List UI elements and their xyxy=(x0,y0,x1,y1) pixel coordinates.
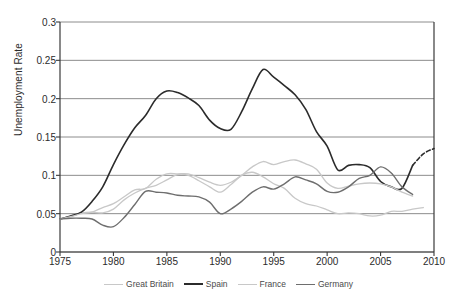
x-tick-label: 1975 xyxy=(37,256,83,267)
series-line-france xyxy=(60,160,413,219)
legend-item[interactable]: Germany xyxy=(296,279,353,289)
series-line-spain-projection xyxy=(413,149,434,166)
legend-item[interactable]: Great Britain xyxy=(104,279,174,289)
legend-label: Spain xyxy=(206,279,228,289)
x-tick-label: 1985 xyxy=(144,256,190,267)
unemployment-rate-line-chart: Unemployment Rate 00.050.10.150.20.250.3… xyxy=(0,0,457,301)
chart-legend: Great BritainSpainFranceGermany xyxy=(0,279,457,289)
x-tick-label: 1990 xyxy=(197,256,243,267)
legend-label: Great Britain xyxy=(126,279,174,289)
series-line-spain xyxy=(60,69,413,219)
legend-line-swatch xyxy=(238,284,257,285)
legend-label: France xyxy=(260,279,286,289)
series-line-great-britain xyxy=(60,172,423,219)
legend-item[interactable]: Spain xyxy=(184,279,228,289)
legend-line-swatch xyxy=(104,284,123,285)
legend-line-swatch xyxy=(296,284,315,285)
x-tick-label: 2010 xyxy=(411,256,457,267)
x-tick-label: 2005 xyxy=(358,256,404,267)
legend-line-swatch xyxy=(184,283,203,285)
legend-label: Germany xyxy=(318,279,353,289)
x-tick-label: 1995 xyxy=(251,256,297,267)
x-tick-label: 1980 xyxy=(90,256,136,267)
legend-item[interactable]: France xyxy=(238,279,286,289)
series-line-germany xyxy=(60,167,413,227)
x-tick-label: 2000 xyxy=(304,256,350,267)
